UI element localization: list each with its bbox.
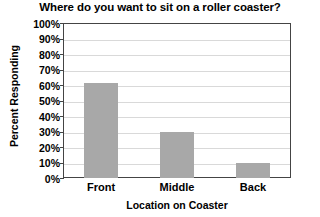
bar-middle — [160, 132, 194, 179]
y-axis-tick-label: 0% — [14, 174, 60, 184]
y-axis-tick-label: 10% — [14, 158, 60, 168]
y-axis-tick-label: 80% — [14, 50, 60, 60]
chart-title: Where do you want to sit on a roller coa… — [0, 1, 320, 13]
bar-chart: Where do you want to sit on a roller coa… — [0, 0, 320, 217]
x-axis-title: Location on Coaster — [63, 199, 291, 211]
y-axis-tick-label: 30% — [14, 127, 60, 137]
y-axis-tick-label: 90% — [14, 34, 60, 44]
bar-back — [236, 163, 270, 179]
x-axis-tick-label: Back — [215, 181, 291, 193]
bar-slot — [160, 23, 194, 178]
x-axis-tick-label: Middle — [139, 181, 215, 193]
y-axis-tick-labels: 100%90%80%70%60%50%40%30%20%10%0% — [14, 18, 60, 178]
bar-series — [63, 23, 291, 178]
bar-front — [84, 83, 118, 178]
y-axis-tick-label: 50% — [14, 96, 60, 106]
y-axis-tick-label: 100% — [14, 19, 60, 29]
y-axis-tick-mark — [60, 178, 64, 179]
x-axis-tick-labels: FrontMiddleBack — [63, 181, 291, 195]
y-axis-tick-label: 40% — [14, 112, 60, 122]
y-axis-tick-label: 60% — [14, 81, 60, 91]
x-axis-tick-label: Front — [63, 181, 139, 193]
bar-slot — [236, 23, 270, 178]
y-axis-tick-label: 70% — [14, 65, 60, 75]
bar-slot — [84, 23, 118, 178]
y-axis-tick-label: 20% — [14, 143, 60, 153]
